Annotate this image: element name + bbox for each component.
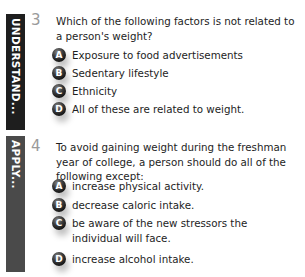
option-text: increase physical activity. (72, 179, 204, 193)
option-b[interactable]: B Sedentary lifestyle (52, 66, 302, 82)
option-letter-bubble[interactable]: A (52, 179, 66, 193)
option-b[interactable]: B decrease caloric intake. (52, 198, 302, 214)
question-number: 3 (31, 11, 41, 29)
option-c[interactable]: C Ethnicity (52, 84, 302, 100)
question-stem: To avoid gaining weight during the fresh… (56, 140, 301, 184)
option-letter-bubble[interactable]: A (52, 48, 66, 62)
option-text: All of these are related to weight. (72, 102, 244, 116)
apply-section-label: APPLY... (10, 140, 22, 189)
apply-section-bar: APPLY... (6, 136, 25, 272)
option-a[interactable]: A increase physical activity. (52, 179, 302, 195)
understand-section-label: UNDERSTAND... (10, 18, 22, 115)
option-a[interactable]: A Exposure to food advertisements (52, 48, 302, 64)
option-text: be aware of the new stressors the indivi… (72, 216, 300, 246)
option-text: Ethnicity (72, 84, 117, 98)
option-text: Sedentary lifestyle (72, 66, 169, 80)
option-c[interactable]: C be aware of the new stressors the indi… (52, 216, 302, 248)
option-text: decrease caloric intake. (72, 198, 194, 212)
option-letter-bubble[interactable]: C (52, 216, 66, 230)
question-stem: Which of the following factors is not re… (56, 14, 301, 43)
understand-section-bar: UNDERSTAND... (6, 14, 25, 130)
option-text: Exposure to food advertisements (72, 48, 243, 62)
option-letter-bubble[interactable]: C (52, 84, 66, 98)
option-letter-bubble[interactable]: D (52, 252, 66, 266)
option-letter-bubble[interactable]: D (52, 102, 66, 116)
question-number: 4 (31, 137, 41, 155)
option-d[interactable]: D increase alcohol intake. (52, 252, 302, 268)
option-d[interactable]: D All of these are related to weight. (52, 102, 302, 118)
option-text: increase alcohol intake. (72, 252, 194, 266)
option-letter-bubble[interactable]: B (52, 198, 66, 212)
option-letter-bubble[interactable]: B (52, 66, 66, 80)
